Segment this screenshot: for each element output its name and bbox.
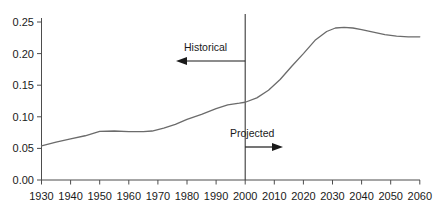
y-tick-label-0.10: 0.10: [2, 111, 34, 123]
y-tick-label-0.05: 0.05: [2, 142, 34, 154]
projected-annotation-label: Projected: [230, 127, 274, 139]
y-tick-label-0.15: 0.15: [2, 79, 34, 91]
y-tick-label-0.25: 0.25: [2, 16, 34, 28]
historical-arrow-icon: [176, 57, 245, 65]
projected-arrow-icon: [245, 143, 283, 151]
x-tick-label-2060: 2060: [400, 190, 437, 202]
y-tick-label-0.00: 0.00: [2, 174, 34, 186]
historical-annotation-label: Historical: [184, 41, 227, 53]
y-tick-label-0.20: 0.20: [2, 48, 34, 60]
x-tick-marks: [42, 180, 420, 185]
y-tick-marks: [37, 22, 42, 180]
